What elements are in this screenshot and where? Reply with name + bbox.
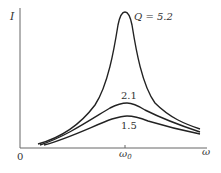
label-q-2-1: 2.1 [121, 90, 137, 101]
omega0-sub: 0 [127, 153, 132, 161]
resonance-chart: I 0 ω0 ω Q = 5.2 2.1 1.5 [0, 0, 221, 173]
curve-q-5-2 [38, 12, 200, 144]
omega0-main: ω [119, 148, 127, 159]
label-q-1-5: 1.5 [121, 120, 137, 131]
y-axis-label: I [9, 10, 15, 23]
x-axis-label: ω [202, 146, 210, 157]
omega0-label: ω0 [119, 148, 132, 161]
label-q-5-2: Q = 5.2 [134, 11, 173, 22]
origin-label: 0 [17, 151, 23, 162]
